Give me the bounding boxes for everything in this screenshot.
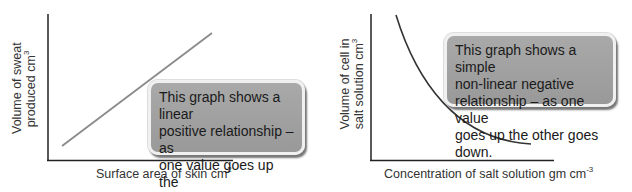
linear-positive-graph: Volume of sweat produced cm3 Surface are… [0,0,316,192]
nonlinear-negative-graph: Volume of cell in salt solution cm3 Conc… [316,0,632,192]
callout-box: This graph shows a simple non-linear neg… [444,33,616,107]
y-axis-label: Volume of cell in salt solution cm3 [338,34,366,134]
callout-box: This graph shows a linear positive relat… [148,80,305,155]
x-axis-label: Concentration of salt solution gm cm-3 [384,167,593,181]
y-axis-label: Volume of sweat produced cm3 [10,44,38,134]
